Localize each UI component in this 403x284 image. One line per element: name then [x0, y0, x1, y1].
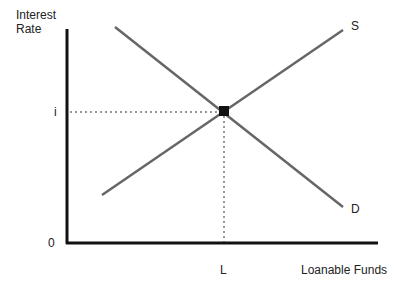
x-axis-label: Loanable Funds: [301, 263, 387, 277]
funds-tick-label: L: [220, 263, 227, 277]
demand-label: D: [351, 202, 360, 216]
y-axis-label-line1: Interest: [16, 8, 56, 22]
equilibrium-point: [219, 106, 229, 116]
supply-label: S: [351, 19, 359, 33]
diagram-canvas: [0, 0, 403, 284]
y-axis-label-line2: Rate: [16, 22, 41, 36]
origin-label: 0: [48, 236, 55, 250]
interest-tick-label: i: [54, 105, 57, 119]
